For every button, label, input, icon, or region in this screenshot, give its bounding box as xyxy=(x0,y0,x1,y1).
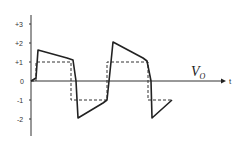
waveform-plot: t +3 +2 +1 0 -1 -2 VO xyxy=(0,0,237,158)
y-tick-label: +3 xyxy=(15,21,23,28)
y-tick-label: -1 xyxy=(17,97,23,104)
curve-label-vo: VO xyxy=(191,64,206,81)
x-axis-label: t xyxy=(229,77,232,86)
y-tick-label: 0 xyxy=(20,78,24,85)
y-ticks: +3 +2 +1 0 -1 -2 xyxy=(15,21,31,123)
waveform-diagram: t +3 +2 +1 0 -1 -2 VO xyxy=(0,0,237,158)
y-tick-label: -2 xyxy=(17,116,23,123)
x-axis-arrow-icon xyxy=(221,79,226,84)
y-tick-label: +2 xyxy=(15,40,23,47)
output-waveform-vo xyxy=(31,42,172,118)
y-tick-label: +1 xyxy=(15,59,23,66)
